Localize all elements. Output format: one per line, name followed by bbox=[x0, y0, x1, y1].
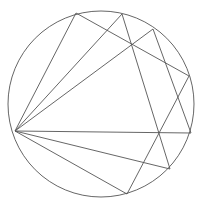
geometry-diagram bbox=[0, 0, 201, 207]
chord-AB bbox=[15, 13, 76, 131]
chord-EH bbox=[127, 76, 189, 194]
chords-group bbox=[15, 13, 191, 194]
chord-AG bbox=[15, 131, 170, 169]
chord-CG bbox=[122, 14, 170, 169]
chord-AH bbox=[15, 131, 127, 194]
chord-AC bbox=[15, 14, 122, 131]
chord-AF bbox=[15, 131, 191, 133]
circumcircle bbox=[8, 11, 194, 197]
